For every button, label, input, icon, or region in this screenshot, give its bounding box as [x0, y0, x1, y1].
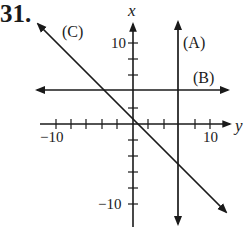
x-axis-label: x: [127, 1, 136, 20]
line-b-label: (B): [193, 69, 214, 87]
line-a-label: (A): [183, 34, 205, 52]
line-c: (C): [38, 23, 226, 212]
tick-label-neg-10-vertical: −10: [98, 196, 121, 212]
vertical-axis-x: x 10 −10: [98, 1, 138, 227]
tick-label-neg-10: −10: [40, 129, 63, 145]
tick-label-pos-10-vertical: 10: [111, 35, 126, 51]
y-axis-label: y: [233, 116, 243, 135]
line-a: (A): [178, 22, 205, 224]
coordinate-plot: y −10 10 x 10 −10 (A) (B) (C): [0, 0, 247, 246]
tick-label-pos-10: 10: [203, 129, 218, 145]
line-c-label: (C): [62, 23, 83, 41]
horizontal-axis-y: y −10 10: [40, 116, 243, 145]
